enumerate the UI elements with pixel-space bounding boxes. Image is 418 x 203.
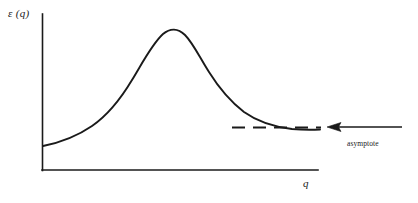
asymptote-annotation-label: asymptote <box>347 140 379 148</box>
asymptote-curve-figure: ε (q) q asymptote <box>0 0 418 203</box>
plot-canvas <box>0 0 418 203</box>
x-axis-label: q <box>303 178 309 189</box>
y-axis-label: ε (q) <box>8 8 29 19</box>
